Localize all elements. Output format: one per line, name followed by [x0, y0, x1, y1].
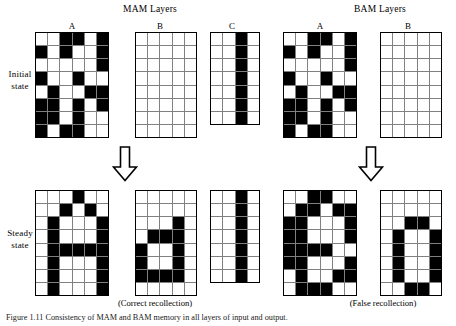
grid-cell	[160, 59, 171, 71]
grid-cell	[48, 59, 59, 71]
grid-cell	[148, 283, 159, 295]
grid-cell	[136, 86, 147, 98]
grid-cell	[284, 46, 295, 58]
row-label-initial-line1: Initial	[9, 69, 32, 79]
note-false-recollection: (False recollection)	[318, 298, 448, 308]
grid-cell	[236, 191, 247, 203]
grid-cell	[36, 204, 47, 216]
grid-cell	[136, 283, 147, 295]
grid-cell	[248, 112, 259, 124]
grid-cell	[296, 112, 307, 124]
column-letter-mam-b: B	[140, 21, 180, 31]
grid-cell	[333, 46, 344, 58]
grid-mam-c-steady	[210, 190, 260, 283]
grid-cell	[148, 270, 159, 282]
grid-cell	[173, 191, 184, 203]
grid-cell	[185, 72, 196, 84]
grid-mam-b-steady	[135, 190, 197, 296]
grid-cell	[148, 86, 159, 98]
grid-cell	[148, 46, 159, 58]
grid-cell	[223, 204, 234, 216]
grid-cell	[430, 99, 441, 111]
grid-cell	[160, 283, 171, 295]
grid-cell	[73, 257, 84, 269]
grid-cell	[248, 270, 259, 282]
grid-mam-b-initial	[135, 32, 197, 138]
grid-cell	[236, 257, 247, 269]
grid-cell	[321, 33, 332, 45]
grid-cell	[321, 230, 332, 242]
grid-cell	[97, 33, 108, 45]
grid-cell	[405, 244, 416, 256]
grid-cell	[185, 86, 196, 98]
grid-cell	[393, 217, 404, 229]
grid-cell	[321, 59, 332, 71]
grid-cell	[173, 72, 184, 84]
grid-cell	[211, 99, 222, 111]
grid-cell	[381, 244, 392, 256]
grid-cell	[148, 72, 159, 84]
grid-cell	[173, 112, 184, 124]
grid-cell	[345, 270, 356, 282]
grid-cell	[36, 230, 47, 242]
grid-cell	[173, 59, 184, 71]
grid-cell	[173, 204, 184, 216]
grid-cell	[296, 33, 307, 45]
grid-cell	[321, 125, 332, 137]
grid-cell	[345, 86, 356, 98]
grid-cell	[308, 99, 319, 111]
grid-cell	[211, 112, 222, 124]
grid-cell	[185, 191, 196, 203]
grid-cell	[185, 33, 196, 45]
grid-cell	[430, 125, 441, 137]
grid-cell	[160, 204, 171, 216]
grid-cell	[236, 33, 247, 45]
grid-cell	[308, 86, 319, 98]
grid-cell	[321, 257, 332, 269]
grid-cell	[148, 244, 159, 256]
grid-cell	[236, 230, 247, 242]
grid-cell	[236, 217, 247, 229]
grid-cell	[418, 217, 429, 229]
grid-cell	[73, 46, 84, 58]
grid-cell	[284, 257, 295, 269]
grid-cell	[418, 112, 429, 124]
grid-cell	[345, 283, 356, 295]
grid-cell	[223, 99, 234, 111]
grid-cell	[284, 125, 295, 137]
grid-cell	[381, 59, 392, 71]
grid-cell	[211, 191, 222, 203]
grid-cell	[430, 244, 441, 256]
grid-cell	[405, 257, 416, 269]
grid-cell	[333, 270, 344, 282]
grid-cell	[48, 112, 59, 124]
grid-cell	[308, 191, 319, 203]
grid-cell	[393, 72, 404, 84]
grid-cell	[393, 59, 404, 71]
grid-cell	[321, 204, 332, 216]
grid-cell	[97, 191, 108, 203]
grid-cell	[393, 33, 404, 45]
grid-cell	[48, 72, 59, 84]
grid-cell	[393, 99, 404, 111]
grid-cell	[173, 86, 184, 98]
grid-cell	[223, 46, 234, 58]
grid-bam-b-initial	[380, 32, 442, 138]
grid-cell	[308, 230, 319, 242]
grid-cell	[284, 204, 295, 216]
grid-cell	[296, 125, 307, 137]
grid-cell	[36, 125, 47, 137]
grid-cell	[73, 204, 84, 216]
grid-cell	[185, 283, 196, 295]
grid-cell	[321, 270, 332, 282]
grid-cell	[430, 33, 441, 45]
grid-cell	[296, 230, 307, 242]
grid-cell	[60, 72, 71, 84]
grid-cell	[296, 191, 307, 203]
grid-cell	[296, 99, 307, 111]
grid-cell	[381, 270, 392, 282]
grid-cell	[136, 59, 147, 71]
grid-cell	[308, 204, 319, 216]
grid-cell	[345, 244, 356, 256]
grid-cell	[85, 59, 96, 71]
